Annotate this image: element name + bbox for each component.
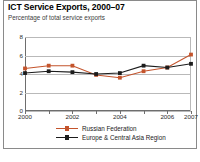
page-title: ICT Service Exports, 2000–07 — [8, 2, 188, 12]
x-tick-mark-2001 — [49, 111, 50, 114]
data-point-marker — [189, 53, 193, 57]
data-point-marker — [71, 70, 75, 74]
data-point-marker — [118, 76, 122, 80]
y-tick-label-6: 6 — [3, 53, 23, 59]
data-point-marker — [94, 72, 98, 76]
plot-area: 02468 — [25, 37, 191, 111]
x-tick-label-2004: 2004 — [107, 113, 133, 120]
x-tick-label-2006: 2006 — [154, 113, 180, 120]
data-point-marker — [23, 71, 27, 75]
x-tick-label-2000: 2000 — [12, 113, 38, 120]
x-tick-mark-2003 — [96, 111, 97, 114]
data-point-marker — [47, 69, 51, 73]
legend-label: Russian Federation — [78, 125, 137, 133]
legend-marker — [65, 126, 70, 131]
legend-item-2: Europe & Central Asia Region — [0, 133, 200, 142]
data-point-marker — [165, 66, 169, 70]
x-tick-mark-2005 — [144, 111, 145, 114]
y-tick-label-2: 2 — [3, 90, 23, 96]
data-point-marker — [47, 64, 51, 68]
legend-label: Europe & Central Asia Region — [78, 134, 166, 142]
y-tick-label-8: 8 — [3, 34, 23, 40]
data-point-marker — [118, 71, 122, 75]
x-tick-label-2007: 2007 — [178, 113, 200, 120]
data-point-marker — [189, 62, 193, 66]
legend-swatch-icon — [56, 124, 78, 133]
data-point-marker — [71, 64, 75, 68]
y-tick-label-4: 4 — [3, 71, 23, 77]
data-point-marker — [23, 67, 27, 71]
legend-item-1: Russian Federation — [0, 124, 200, 133]
chart-figure: ICT Service Exports, 2000–07 Percentage … — [0, 0, 200, 162]
series-lines — [25, 37, 191, 111]
legend-swatch-icon — [56, 133, 78, 142]
data-point-marker — [142, 64, 146, 68]
data-point-marker — [142, 69, 146, 73]
chart-legend: Russian FederationEurope & Central Asia … — [0, 124, 200, 142]
legend-marker — [65, 135, 70, 140]
chart-subtitle: Percentage of total service exports — [8, 14, 188, 22]
x-tick-label-2002: 2002 — [59, 113, 85, 120]
gridline-0 — [25, 111, 191, 112]
